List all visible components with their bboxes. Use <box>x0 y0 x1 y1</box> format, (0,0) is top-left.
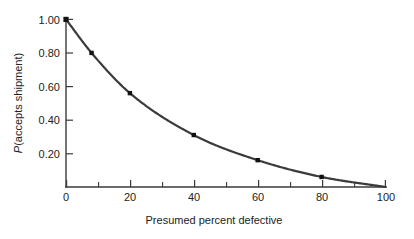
y-tick-label: 0.60 <box>39 81 60 93</box>
svg-text:P(accepts shipment): P(accepts shipment) <box>12 53 24 153</box>
chart-figure: 1.00 0.80 0.60 0.40 0.20 0 20 40 <box>0 0 414 239</box>
y-axis-ticks <box>66 19 73 153</box>
y-tick-label: 0.20 <box>39 148 60 160</box>
x-axis-minor-ticks <box>99 182 355 187</box>
y-tick-label: 0.80 <box>39 47 60 59</box>
x-axis-tick-labels: 0 20 40 60 80 100 <box>63 191 395 203</box>
x-axis-ticks <box>67 180 386 187</box>
data-point-marker <box>128 91 132 95</box>
data-point-marker <box>192 133 196 137</box>
x-tick-label: 0 <box>63 191 69 203</box>
data-point-marker <box>63 17 68 22</box>
x-tick-label: 60 <box>252 191 264 203</box>
data-point-marker <box>319 175 323 179</box>
x-axis-title: Presumed percent defective <box>146 214 283 226</box>
y-tick-label: 0.40 <box>39 114 60 126</box>
y-tick-label: 1.00 <box>39 14 60 26</box>
data-point-markers <box>63 17 387 189</box>
y-axis-title-text: (accepts shipment) <box>12 53 24 146</box>
x-tick-label: 80 <box>316 191 328 203</box>
oc-curve-line <box>66 19 386 187</box>
data-point-marker <box>89 51 93 55</box>
x-tick-label: 40 <box>188 191 200 203</box>
x-tick-label: 100 <box>377 191 395 203</box>
y-axis-tick-labels: 1.00 0.80 0.60 0.40 0.20 <box>39 14 60 160</box>
x-tick-label: 20 <box>124 191 136 203</box>
data-point-marker <box>256 158 260 162</box>
y-axis-title: P(accepts shipment) <box>12 53 24 153</box>
oc-curve-chart: 1.00 0.80 0.60 0.40 0.20 0 20 40 <box>0 0 414 239</box>
